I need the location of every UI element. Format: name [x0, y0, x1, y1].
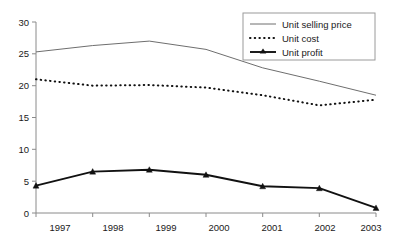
y-tick-label-25: 25 [18, 48, 29, 59]
y-tick-label-15: 15 [18, 112, 29, 123]
y-axis-tick-labels: 30 25 20 15 10 5 0 [18, 17, 29, 219]
legend-label-selling-price: Unit selling price [282, 19, 352, 30]
x-axis-tick-labels: 1997 1998 1999 2000 2001 2002 2003 [49, 222, 381, 233]
y-tick-label-5: 5 [24, 176, 29, 187]
legend-label-profit: Unit profit [282, 47, 323, 58]
x-tick-label-2001: 2001 [261, 222, 282, 233]
x-axis: 1997 1998 1999 2000 2001 2002 2003 [36, 213, 382, 233]
y-tick-label-30: 30 [18, 17, 29, 28]
line-chart: 30 25 20 15 10 5 0 1997 199 [0, 0, 394, 249]
x-tick-label-1998: 1998 [102, 222, 123, 233]
x-tick-label-2002: 2002 [314, 222, 335, 233]
legend-label-cost: Unit cost [282, 33, 319, 44]
y-tick-label-0: 0 [24, 208, 29, 219]
y-tick-label-20: 20 [18, 80, 29, 91]
x-tick-label-1999: 1999 [155, 222, 176, 233]
y-tick-label-10: 10 [18, 144, 29, 155]
x-tick-label-2000: 2000 [208, 222, 229, 233]
x-tick-label-1997: 1997 [49, 222, 70, 233]
legend: Unit selling price Unit cost Unit profit [243, 13, 375, 60]
x-tick-label-2003: 2003 [360, 222, 381, 233]
series-unit-cost [36, 79, 376, 105]
chart-canvas: 30 25 20 15 10 5 0 1997 199 [0, 0, 394, 249]
plot-area [33, 41, 379, 210]
x-axis-ticks [36, 213, 376, 217]
